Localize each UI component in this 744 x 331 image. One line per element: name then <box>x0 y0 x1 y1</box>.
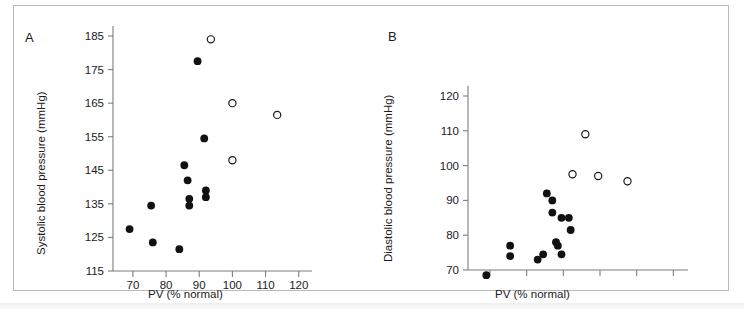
data-point-filled <box>185 202 193 210</box>
y-tick-label: 175 <box>85 64 104 76</box>
data-point-open <box>207 36 214 43</box>
data-point-filled <box>558 250 566 258</box>
data-point-filled <box>147 202 155 210</box>
panel-b-plot: 708090100110120 <box>360 0 732 300</box>
x-tick-label: 120 <box>289 279 308 291</box>
x-tick-label: 100 <box>223 279 242 291</box>
y-tick-label: 70 <box>446 264 459 276</box>
data-point-open <box>229 100 236 107</box>
panel-a-plot: 115125135145155165175185708090100110120 <box>0 0 372 300</box>
y-tick-label: 125 <box>85 231 104 243</box>
data-point-filled <box>565 214 573 222</box>
data-point-filled <box>202 187 210 195</box>
panel-a: A Systolic blood pressure (mmHg) PV (% n… <box>0 0 372 286</box>
y-tick-label: 115 <box>86 265 104 277</box>
y-tick-label: 145 <box>85 164 104 176</box>
x-tick-label: 70 <box>127 279 140 291</box>
data-point-filled <box>539 250 547 258</box>
data-point-filled <box>548 197 556 205</box>
y-tick-label: 80 <box>446 229 459 241</box>
data-point-filled <box>482 271 490 279</box>
data-point-filled <box>200 134 208 142</box>
data-point-filled <box>185 195 193 203</box>
data-point-filled <box>548 209 556 217</box>
y-tick-label: 155 <box>85 131 104 143</box>
data-point-open <box>624 178 631 185</box>
y-tick-label: 135 <box>85 198 104 210</box>
data-point-open <box>595 172 602 179</box>
data-point-filled <box>558 214 566 222</box>
x-tick-label: 110 <box>256 279 274 291</box>
y-tick-label: 185 <box>85 30 104 42</box>
x-tick-label: 80 <box>160 279 173 291</box>
y-tick-label: 120 <box>440 90 459 102</box>
y-tick-label: 90 <box>446 194 459 206</box>
figure-container: A Systolic blood pressure (mmHg) PV (% n… <box>0 0 744 331</box>
data-point-filled <box>184 176 192 184</box>
data-point-filled <box>506 242 514 250</box>
data-point-filled <box>175 245 183 253</box>
y-tick-label: 100 <box>440 160 459 172</box>
data-point-filled <box>126 225 134 233</box>
data-point-open <box>582 131 589 138</box>
data-point-filled <box>506 252 514 260</box>
data-point-filled <box>180 161 188 169</box>
panel-b: B Diastolic blood pressure (mmHg) PV (% … <box>360 0 732 286</box>
page-rule <box>0 303 744 309</box>
data-point-filled <box>202 193 210 201</box>
x-tick-label: 90 <box>193 279 206 291</box>
data-point-open <box>274 111 281 118</box>
y-tick-label: 165 <box>85 97 104 109</box>
data-point-open <box>229 157 236 164</box>
data-point-open <box>569 171 576 178</box>
data-point-filled <box>552 238 560 246</box>
data-point-filled <box>149 239 157 247</box>
data-point-filled <box>543 190 551 198</box>
data-point-filled <box>567 226 575 234</box>
data-point-filled <box>194 57 202 65</box>
y-tick-label: 110 <box>441 125 459 137</box>
